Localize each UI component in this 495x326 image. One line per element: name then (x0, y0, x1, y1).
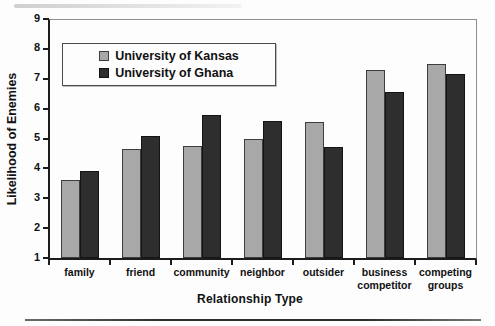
y-tick-label: 2 (20, 221, 40, 233)
legend-label-kansas: University of Kansas (115, 49, 239, 63)
bar-university-of-kansas-friend (122, 149, 141, 258)
x-axis-tick (475, 260, 477, 265)
x-category-label-friend: friend (109, 266, 173, 279)
y-tick-label: 4 (20, 161, 40, 173)
y-tick-label: 5 (20, 131, 40, 143)
legend-item-ghana: University of Ghana (99, 66, 239, 80)
y-axis-tick (43, 167, 49, 169)
scan-artifact-strip (14, 4, 242, 8)
x-axis-tick (292, 260, 294, 265)
x-category-label-outsider: outsider (292, 266, 356, 279)
bar-university-of-kansas-outsider (305, 122, 324, 258)
y-tick-label: 6 (20, 101, 40, 113)
bar-university-of-kansas-community (183, 146, 202, 258)
y-axis-tick (43, 48, 49, 50)
x-category-label-neighbor: neighbor (231, 266, 295, 279)
y-axis-tick (43, 227, 49, 229)
y-axis-tick (43, 108, 49, 110)
y-tick-label: 8 (20, 41, 40, 53)
x-category-label-community: community (170, 266, 234, 279)
y-axis-tick (43, 18, 49, 20)
legend-item-kansas: University of Kansas (99, 49, 239, 63)
bar-university-of-kansas-family (61, 180, 80, 258)
bottom-rule (25, 319, 481, 321)
x-axis-tick (170, 260, 172, 265)
bar-university-of-kansas-competing-groups (427, 64, 446, 258)
kansas-series-marker-icon (99, 51, 109, 61)
x-axis-tick (109, 260, 111, 265)
x-axis-tick (414, 260, 416, 265)
x-axis-title: Relationship Type (150, 292, 350, 306)
bar-university-of-ghana-community (202, 115, 221, 258)
y-tick-label: 3 (20, 191, 40, 203)
bar-university-of-ghana-neighbor (263, 121, 282, 258)
y-axis-tick (43, 197, 49, 199)
bar-university-of-ghana-competing-groups (446, 74, 465, 258)
x-category-label-competing-groups: competing groups (414, 266, 478, 291)
bar-chart-figure: Likelihood of Enemies Relationship Type … (0, 0, 495, 326)
x-axis-tick (231, 260, 233, 265)
bar-university-of-kansas-neighbor (244, 139, 263, 259)
y-tick-label: 1 (20, 251, 40, 263)
bar-university-of-ghana-outsider (324, 147, 343, 258)
y-axis-tick (43, 138, 49, 140)
ghana-series-marker-icon (99, 68, 109, 78)
legend-items: University of Kansas University of Ghana (99, 49, 239, 80)
bar-university-of-kansas-business-competitor (366, 70, 385, 258)
bar-university-of-ghana-family (80, 171, 99, 258)
x-category-label-business-competitor: business competitor (353, 266, 417, 291)
y-axis-tick (43, 257, 49, 259)
bar-university-of-ghana-business-competitor (385, 92, 404, 258)
legend-label-ghana: University of Ghana (115, 66, 233, 80)
y-axis-tick (43, 78, 49, 80)
legend: University of Kansas University of Ghana (62, 43, 276, 86)
bar-university-of-ghana-friend (141, 136, 160, 258)
y-tick-label: 9 (20, 12, 40, 24)
x-axis-tick (48, 260, 50, 265)
y-tick-label: 7 (20, 71, 40, 83)
y-axis-title: Likelihood of Enemies (5, 19, 21, 259)
x-axis-tick (353, 260, 355, 265)
x-category-label-family: family (48, 266, 112, 279)
